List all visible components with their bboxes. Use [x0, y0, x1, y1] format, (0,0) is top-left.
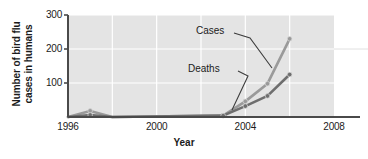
y-axis-label-line-1: Number of bird flu	[11, 22, 23, 107]
data-point-cases	[265, 81, 270, 86]
data-point-cases	[287, 37, 292, 42]
bird-flu-chart-figure: Number of bird flu cases in humans Year …	[0, 0, 368, 159]
y-axis-tick-label: 300	[32, 9, 62, 20]
y-axis-tick-label: 200	[32, 43, 62, 54]
data-point-cases	[243, 99, 248, 104]
data-point-deaths	[243, 104, 248, 109]
y-axis-label-line-2: cases in humans	[22, 22, 34, 107]
x-axis-label: Year	[0, 137, 368, 148]
x-axis-tick-label: 2004	[225, 121, 265, 132]
series-annotation-deaths: Deaths	[188, 63, 220, 74]
data-point-deaths	[287, 72, 292, 77]
x-axis-tick-label: 2000	[137, 121, 177, 132]
y-axis-tick-label: 100	[32, 77, 62, 88]
x-axis-tick-label: 2008	[314, 121, 354, 132]
x-axis-tick-label: 1996	[48, 121, 88, 132]
y-axis-label: Number of bird flu cases in humans	[2, 8, 42, 120]
series-annotation-cases: Cases	[196, 25, 224, 36]
data-point-deaths	[265, 94, 270, 99]
